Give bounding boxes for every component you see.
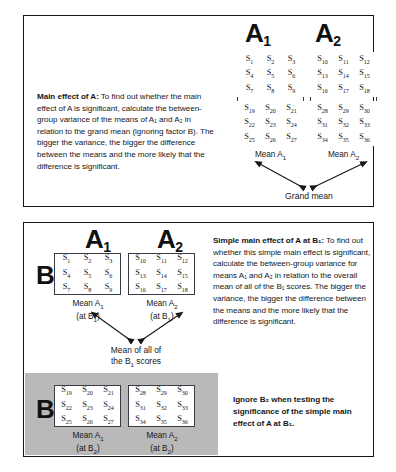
subject-cell-a2-lower: S28 S29 S30 S31 S32 S33 S34 S35 S36 [310, 101, 377, 146]
subject-id: S17 [151, 281, 172, 296]
subject-id: S9 [98, 281, 119, 296]
subject-row: S28 S29 S30 [129, 384, 194, 399]
subject-id: S32 [151, 399, 172, 414]
subject-id: S23 [77, 399, 98, 414]
subject-id: S5 [77, 267, 98, 282]
mean-subscript: 2 [174, 303, 177, 310]
subject-cell-a1-upper: S1 S2 S3 S4 S5 S6 S7 S8 S9 [237, 52, 304, 97]
mean-at-close: ) [171, 312, 174, 321]
subject-row: S22 S23 S24 [55, 399, 120, 414]
mean-subscript: 1 [100, 303, 103, 310]
subject-row: S4 S5 S6 [237, 67, 304, 82]
subject-id: S36 [354, 131, 375, 146]
column-label-a1-top-subscript: 1 [263, 33, 270, 49]
mean-at-text: (at B [76, 312, 93, 321]
subject-id: S15 [172, 267, 193, 282]
subject-row: S13 S14 S15 [310, 67, 377, 82]
subject-id: S26 [260, 131, 281, 146]
subject-id: S2 [260, 53, 281, 68]
subject-row: S7 S8 S9 [55, 281, 120, 296]
mean-at-close: ) [171, 444, 174, 453]
subject-id: S27 [281, 131, 302, 146]
main-effect-description: Main effect of A: To find out whether th… [37, 91, 215, 172]
subject-id: S12 [354, 53, 375, 68]
subject-id: S11 [333, 53, 354, 68]
subject-id: S1 [239, 53, 260, 68]
subject-id: S26 [77, 413, 98, 428]
mean-at-close: ) [97, 444, 100, 453]
subject-id: S13 [130, 267, 151, 282]
subject-row: S31 S32 S33 [129, 399, 194, 414]
subject-id: S25 [239, 131, 260, 146]
subject-id: S24 [281, 116, 302, 131]
column-label-a2-bottom-letter: A [157, 224, 175, 254]
mean-subscript: 1 [100, 435, 103, 442]
mean-subscript: 2 [356, 154, 359, 161]
subject-id: S7 [239, 82, 260, 97]
simple-effect-heading: Simple main effect of A at B₁: [213, 236, 324, 245]
subject-id: S31 [312, 116, 333, 131]
subject-id: S8 [260, 82, 281, 97]
mean-at-close: ) [97, 312, 100, 321]
subject-id: S14 [151, 267, 172, 282]
subject-id: S11 [151, 252, 172, 267]
subject-row: S28 S29 S30 [310, 102, 377, 117]
subject-id: S34 [130, 413, 151, 428]
subject-id: S28 [312, 102, 333, 117]
subject-cell-b2-a1: S19 S20 S21 S22 S23 S24 S25 S26 S27 [54, 385, 121, 427]
figure-canvas: A1 A2 S1 S2 S3 S4 S5 S6 S7 S8 S9 S10 S11… [0, 0, 396, 472]
mean-text: Mean A [255, 150, 283, 159]
subject-id: S8 [77, 281, 98, 296]
main-effect-body: To find out whether the main effect of A… [37, 92, 214, 171]
subject-row: S34 S35 S36 [310, 131, 377, 146]
subject-id: S1 [56, 252, 77, 267]
subject-id: S2 [77, 252, 98, 267]
mean-text: Mean A [146, 431, 174, 440]
subject-cell-b1-a2: S10 S11 S12 S13 S14 S15 S16 S17 S18 [128, 253, 195, 295]
subject-id: S9 [281, 82, 302, 97]
subject-id: S17 [333, 82, 354, 97]
ignore-b2-note: Ignore B₂ when testing the significance … [233, 394, 375, 429]
subject-id: S23 [260, 116, 281, 131]
column-label-a2-top-subscript: 2 [333, 33, 340, 49]
subject-id: S4 [56, 267, 77, 282]
subject-id: S14 [333, 67, 354, 82]
subject-id: S18 [172, 281, 193, 296]
mean-label-b1-a2: Mean A2 (at B1) [123, 299, 201, 325]
subject-id: S19 [56, 384, 77, 399]
subject-id: S3 [98, 252, 119, 267]
simple-effect-body: To find out whether this simple main eff… [213, 236, 370, 326]
subject-id: S21 [98, 384, 119, 399]
subject-id: S10 [312, 53, 333, 68]
subject-row: S25 S26 S27 [237, 131, 304, 146]
row-label-b2-letter: B [36, 394, 54, 424]
mean-label-a2-top: Mean A2 [310, 150, 377, 163]
subject-id: S33 [354, 116, 375, 131]
subject-id: S36 [172, 413, 193, 428]
subject-id: S6 [281, 67, 302, 82]
subject-id: S22 [239, 116, 260, 131]
mean-at-text: (at B [76, 444, 93, 453]
subject-id: S24 [98, 399, 119, 414]
mean-text: Mean A [72, 299, 100, 308]
subject-id: S16 [312, 82, 333, 97]
subject-id: S35 [333, 131, 354, 146]
column-label-a1-bottom: A1 [85, 226, 111, 252]
column-label-a2-top: A2 [315, 20, 341, 46]
mean-at-text: (at B [150, 444, 167, 453]
subject-id: S12 [172, 252, 193, 267]
subject-id: S15 [354, 67, 375, 82]
subject-id: S4 [239, 67, 260, 82]
mean-label-b2-a2: Mean A2 (at B2) [123, 431, 201, 457]
subject-id: S34 [312, 131, 333, 146]
mean-label-b2-a1: Mean A1 (at B2) [49, 431, 127, 457]
column-label-a1-bottom-letter: A [85, 224, 103, 254]
subject-id: S3 [281, 53, 302, 68]
mean-text: Mean A [146, 299, 174, 308]
subject-row: S34 S35 S36 [129, 413, 194, 428]
subject-cell-a2-upper: S10 S11 S12 S13 S14 S15 S16 S17 S18 [310, 52, 377, 97]
subject-id: S19 [239, 102, 260, 117]
subject-row: S1 S2 S3 [237, 53, 304, 68]
grand-mean-label: Grand mean [266, 191, 352, 201]
subject-id: S27 [98, 413, 119, 428]
